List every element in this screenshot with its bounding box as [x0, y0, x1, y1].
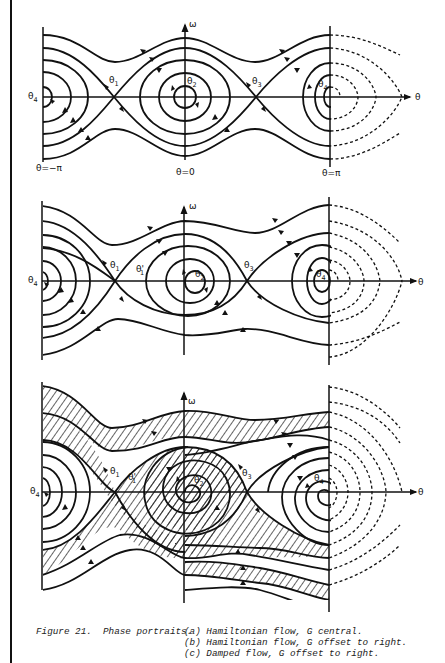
svg-text:θ4: θ4	[28, 275, 38, 288]
panel-c: ω θ θ4 θ1 θ'1 θ2 θ3 θ4	[0, 382, 424, 612]
svg-text:θ3: θ3	[244, 260, 254, 273]
tick-zero: θ=0	[176, 167, 195, 177]
omega-label-b: ω	[189, 201, 197, 211]
figure-number-and-title: Figure 21. Phase portraits.	[36, 626, 192, 637]
caption-item-b: (b) Hamiltonian flow, G offset to right.	[184, 637, 407, 648]
caption-item-c: (c) Damped flow, G offset to right.	[184, 648, 407, 659]
tick-minus-pi: θ=−π	[36, 163, 63, 173]
omega-label-a: ω	[189, 19, 197, 29]
svg-text:θ3: θ3	[242, 468, 252, 481]
theta-label-b: θ	[418, 277, 424, 287]
svg-text:θ4: θ4	[314, 473, 324, 486]
svg-text:θ4: θ4	[30, 486, 40, 499]
svg-text:θ4: θ4	[28, 91, 38, 104]
panel-b: ω θ θ4 θ1 θ'1 θ2 θ3 θ4	[0, 197, 424, 365]
svg-text:θ'1: θ'1	[136, 264, 144, 277]
theta-label-a: θ	[415, 92, 421, 102]
tick-pi: θ=π	[322, 168, 341, 178]
caption-item-a: (a) Hamiltonian flow, G central.	[184, 626, 407, 637]
svg-text:θ1: θ1	[110, 466, 120, 479]
caption-list: (a) Hamiltonian flow, G central. (b) Ham…	[184, 626, 407, 659]
svg-text:θ1: θ1	[109, 75, 119, 88]
svg-text:θ4: θ4	[318, 79, 328, 92]
omega-label-c: ω	[188, 396, 196, 406]
figure-number: Figure 21.	[36, 626, 92, 637]
svg-text:θ1: θ1	[110, 260, 120, 273]
svg-text:θ2: θ2	[195, 269, 205, 282]
figure-title: Phase portraits.	[103, 626, 192, 637]
theta-label-c: θ	[418, 487, 424, 497]
panel-a: ω θ θ1 θ2 θ3 θ4 θ4 θ=−π θ=0 θ=π	[0, 19, 421, 178]
svg-text:θ3: θ3	[252, 76, 262, 89]
phase-portraits-figure: ω θ θ1 θ2 θ3 θ4 θ4 θ=−π θ=0 θ=π	[0, 0, 445, 663]
